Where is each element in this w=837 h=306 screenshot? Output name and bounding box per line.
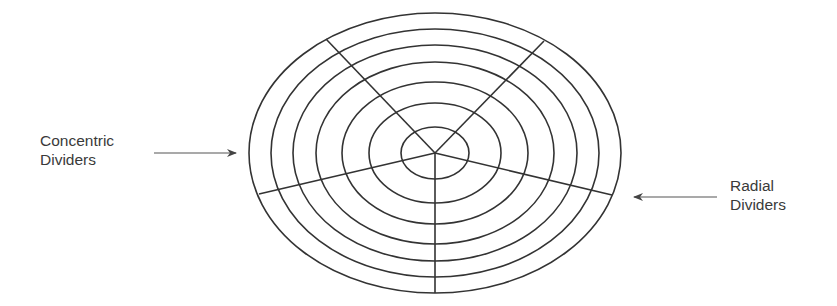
label-line: Dividers: [730, 195, 786, 214]
radial-dividers: [259, 39, 612, 293]
label-line: Radial: [730, 176, 786, 195]
concentric-dividers-label: Concentric Dividers: [40, 131, 114, 169]
radial-line: [259, 153, 435, 194]
radial-line: [435, 41, 544, 153]
radial-line: [435, 153, 612, 195]
radial-dividers-label: Radial Dividers: [730, 176, 786, 214]
label-line: Dividers: [40, 150, 114, 169]
divider-diagram: [0, 0, 837, 306]
label-line: Concentric: [40, 131, 114, 150]
